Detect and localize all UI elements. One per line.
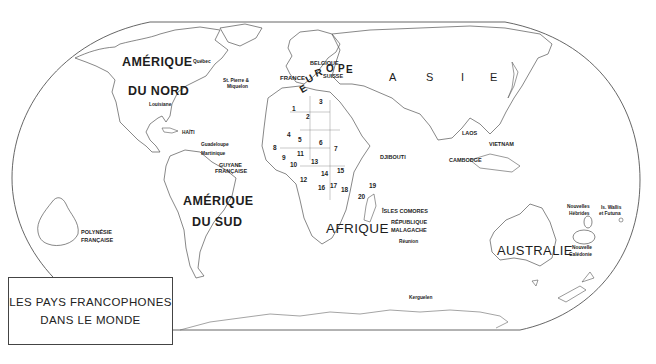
label-polynesie-line1: POLYNÉSIE [81, 230, 112, 236]
africa-number-19: 19 [369, 183, 376, 190]
label-wallis-line2: et Futuna [599, 212, 621, 217]
africa-number-4: 4 [287, 132, 291, 139]
africa-number-13: 13 [311, 159, 318, 166]
label-australie: AUSTRALIE [497, 244, 573, 257]
africa-number-16: 16 [318, 185, 325, 192]
label-laos: LAOS [462, 131, 477, 137]
africa-number-2: 2 [306, 114, 310, 121]
africa-number-18: 18 [341, 187, 348, 194]
map-title-line2: DANS LE MONDE [40, 311, 140, 329]
label-nouvelles-hebrides-line2: Hébrides [569, 212, 590, 217]
label-afrique: AFRIQUE [326, 222, 389, 236]
label-asie-letter: I [461, 72, 464, 83]
label-nouvelle-caledonie-line2: Calédonie [569, 253, 592, 258]
africa-number-11: 11 [297, 151, 304, 158]
africa-number-15: 15 [337, 168, 344, 175]
africa-number-20: 20 [358, 194, 365, 201]
africa-number-5: 5 [298, 137, 302, 144]
label-amerique-du-sud-line2: DU SUD [192, 216, 242, 229]
label-madagascar-line1: RÉPUBLIQUE [391, 220, 427, 226]
label-miquelon: Miquelon [227, 85, 248, 90]
label-reunion: Réunion [399, 240, 418, 245]
label-guadeloupe: Guadeloupe [201, 143, 229, 148]
label-madagascar-line2: MALAGACHE [391, 228, 427, 234]
label-guyane-line2: FRANÇAISE [215, 169, 247, 175]
label-martinique: Martinique [201, 152, 225, 157]
label-nouvelle-caledonie-line1: Nouvelle [572, 246, 592, 251]
map-title-line1: LES PAYS FRANCOPHONES [9, 293, 172, 311]
label-haiti: HAÏTI [182, 131, 195, 136]
label-amerique-du-nord-line1: AMÉRIQUE [122, 56, 193, 69]
label-europe-letter: E [346, 65, 353, 75]
francophone-world-map: AMÉRIQUE DU NORD AMÉRIQUE DU SUD AFRIQUE… [0, 0, 656, 364]
africa-number-7: 7 [334, 146, 338, 153]
africa-number-17: 17 [330, 183, 337, 190]
africa-number-3: 3 [319, 99, 323, 106]
label-nouvelles-hebrides-line1: Nouvelles [567, 205, 590, 210]
africa-number-8: 8 [273, 145, 277, 152]
label-louisiane: Louisiane [149, 103, 171, 108]
africa-number-9: 9 [282, 155, 286, 162]
label-asie-letter: S [426, 72, 433, 83]
africa-number-12: 12 [300, 177, 307, 184]
africa-number-6: 6 [319, 140, 323, 147]
label-belgique: BELGIQUE [310, 61, 339, 67]
label-asie-letter: A [389, 72, 396, 83]
label-suisse: SUISSE [323, 74, 343, 80]
africa-number-14: 14 [321, 171, 328, 178]
africa-number-1: 1 [292, 106, 296, 113]
label-vietnam: VIETNAM [489, 142, 514, 148]
label-amerique-du-nord-line2: DU NORD [128, 85, 189, 98]
africa-number-10: 10 [290, 162, 297, 169]
label-kerguelen: Kerguelen [409, 296, 432, 301]
label-quebec: Québec [193, 60, 211, 65]
label-amerique-du-sud-line1: AMÉRIQUE [183, 195, 254, 208]
label-cambodge: CAMBODGE [449, 158, 482, 164]
label-djibouti: DJIBOUTI [380, 155, 406, 161]
label-polynesie-line2: FRANÇAISE [81, 238, 113, 244]
label-france: FRANCE [280, 75, 305, 81]
map-title-box: LES PAYS FRANCOPHONES DANS LE MONDE [8, 277, 173, 345]
label-comores: ÎSLES COMORES [382, 209, 428, 215]
label-asie-letter: E [490, 72, 497, 83]
